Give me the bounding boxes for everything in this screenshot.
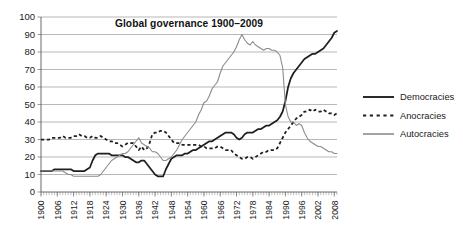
x-tick-label: 1924 xyxy=(101,200,111,219)
x-tick-label: 2002 xyxy=(313,200,323,219)
x-tick-label: 1996 xyxy=(297,200,307,219)
x-tick-label: 1972 xyxy=(232,200,242,219)
y-tick-label: 80 xyxy=(24,46,35,57)
x-tick-label: 1900 xyxy=(36,200,46,219)
legend-label: Autocracies xyxy=(400,129,449,139)
x-tick-label: 1954 xyxy=(183,200,193,219)
y-tick-label: 0 xyxy=(30,186,35,197)
x-tick-label: 1918 xyxy=(85,200,95,219)
global-governance-line-chart: 0102030405060708090100 19001906191219181… xyxy=(0,0,463,241)
y-tick-label: 20 xyxy=(24,151,35,162)
chart-figure: 0102030405060708090100 19001906191219181… xyxy=(0,0,463,241)
x-tick-label: 1966 xyxy=(216,200,226,219)
x-tick-label: 2008 xyxy=(330,200,340,219)
y-tick-label: 60 xyxy=(24,81,35,92)
y-tick-label: 90 xyxy=(24,29,35,40)
x-tick-label: 1984 xyxy=(264,200,274,219)
x-tick-label: 1912 xyxy=(69,200,79,219)
legend-label: Democracies xyxy=(400,92,455,102)
x-tick-label: 1960 xyxy=(199,200,209,219)
x-tick-label: 1930 xyxy=(118,200,128,219)
y-tick-label: 40 xyxy=(24,116,35,127)
x-tick-label: 1948 xyxy=(167,200,177,219)
y-tick-label: 50 xyxy=(24,99,35,110)
x-tick-label: 1936 xyxy=(134,200,144,219)
y-tick-label: 100 xyxy=(19,11,35,22)
x-tick-label: 1942 xyxy=(150,200,160,219)
y-tick-label: 30 xyxy=(24,134,35,145)
y-tick-label: 70 xyxy=(24,64,35,75)
y-tick-label: 10 xyxy=(24,169,35,180)
x-tick-label: 1906 xyxy=(53,200,63,219)
x-tick-label: 1990 xyxy=(281,200,291,219)
x-tick-label: 1978 xyxy=(248,200,258,219)
legend-label: Anocracies xyxy=(400,111,446,121)
chart-title: Global governance 1900–2009 xyxy=(115,18,263,29)
